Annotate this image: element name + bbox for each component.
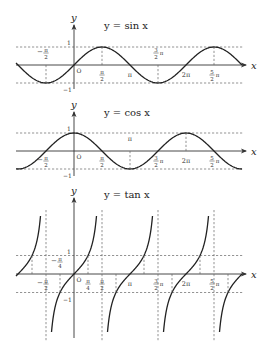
svg-text:π: π — [160, 281, 164, 287]
x-tick-label: −π2 — [37, 47, 49, 60]
svg-text:2: 2 — [100, 76, 104, 82]
x-tick-label: π4 — [85, 278, 90, 291]
svg-text:π: π — [216, 158, 220, 164]
svg-text:−: − — [37, 279, 43, 287]
origin-label: O — [77, 153, 82, 160]
svg-text:2: 2 — [100, 162, 104, 168]
x-tick-label: 32π — [153, 47, 163, 60]
sine-graph: xyy = sin xO1−1−π2π2π32π2π52π — [16, 12, 257, 93]
svg-text:π: π — [44, 278, 48, 284]
svg-text:π: π — [44, 155, 48, 161]
x-tick-label: π2 — [99, 155, 104, 168]
svg-text:2: 2 — [154, 162, 158, 168]
svg-text:π: π — [128, 280, 133, 288]
y-tick-1: 1 — [67, 39, 71, 46]
svg-text:2: 2 — [210, 76, 214, 82]
x-axis-label: x — [251, 60, 257, 71]
x-tick-label: −π4 — [51, 256, 63, 269]
svg-text:−: − — [37, 156, 43, 164]
svg-text:5: 5 — [210, 278, 214, 284]
svg-text:2π: 2π — [182, 157, 191, 165]
x-tick-label: −π2 — [37, 155, 49, 168]
svg-text:2: 2 — [154, 54, 158, 60]
y-tick-1: 1 — [67, 248, 71, 255]
y-tick-minus-1: −1 — [63, 172, 72, 179]
svg-text:2: 2 — [210, 285, 214, 291]
svg-text:2: 2 — [44, 162, 48, 168]
origin-label: O — [77, 67, 82, 74]
svg-text:−: − — [51, 257, 57, 265]
tan-branch — [220, 274, 243, 332]
x-tick-label: 52π — [209, 278, 219, 291]
x-tick-label: 32π — [153, 155, 163, 168]
x-tick-label: −π2 — [37, 278, 49, 291]
svg-text:5: 5 — [210, 69, 214, 75]
svg-text:π: π — [100, 278, 104, 284]
svg-text:π: π — [216, 281, 220, 287]
y-tick-1: 1 — [67, 125, 71, 132]
svg-text:2: 2 — [44, 54, 48, 60]
svg-text:π: π — [160, 50, 164, 56]
trig-function-figure: xyy = sin xO1−1−π2π2π32π2π52π xyy = cos … — [0, 0, 272, 358]
svg-text:4: 4 — [58, 263, 62, 269]
x-tick-label: π2 — [99, 69, 104, 82]
x-tick-label: 2π — [182, 280, 191, 288]
x-axis-label: x — [251, 146, 257, 157]
y-axis-label: y — [70, 99, 77, 110]
graph-title: y = tan x — [103, 189, 150, 200]
svg-text:2: 2 — [154, 285, 158, 291]
x-tick-label: π — [128, 280, 133, 288]
x-axis-label: x — [251, 269, 257, 280]
trig-graphs-svg: xyy = sin xO1−1−π2π2π32π2π52π xyy = cos … — [0, 0, 272, 358]
svg-text:5: 5 — [210, 155, 214, 161]
cosine-graph: xyy = cos xO1−1−π2π2π32π2π52π — [16, 99, 257, 179]
x-tick-label: π — [128, 71, 133, 79]
y-axis-label: y — [70, 185, 77, 196]
svg-text:3: 3 — [154, 47, 158, 53]
svg-text:2π: 2π — [182, 280, 191, 288]
svg-text:π: π — [100, 155, 104, 161]
x-tick-label: 52π — [209, 155, 219, 168]
svg-text:3: 3 — [154, 155, 158, 161]
svg-text:3: 3 — [154, 278, 158, 284]
svg-text:2: 2 — [44, 285, 48, 291]
svg-text:π: π — [58, 256, 62, 262]
y-tick-minus-1: −1 — [63, 86, 72, 93]
x-tick-label: π2 — [99, 278, 104, 291]
svg-text:π: π — [86, 278, 90, 284]
svg-text:2: 2 — [210, 162, 214, 168]
svg-text:π: π — [160, 158, 164, 164]
x-tick-label: 2π — [182, 157, 191, 165]
svg-text:2π: 2π — [182, 71, 191, 79]
x-tick-label: 32π — [153, 278, 163, 291]
x-tick-label: 52π — [209, 69, 219, 82]
graph-title: y = sin x — [103, 20, 148, 31]
x-tick-label: 2π — [182, 71, 191, 79]
y-tick-minus-1: −1 — [63, 296, 72, 303]
y-axis-label: y — [70, 12, 77, 23]
svg-text:π: π — [100, 69, 104, 75]
tan-branch — [16, 216, 41, 276]
tangent-graph: xyy = tan xO1−1−π2−π4π4π2π32π2π52π — [16, 185, 257, 342]
svg-text:−: − — [37, 48, 43, 56]
svg-text:4: 4 — [86, 285, 90, 291]
svg-text:π: π — [216, 72, 220, 78]
svg-text:π: π — [128, 135, 133, 143]
origin-label: O — [77, 276, 82, 283]
svg-text:π: π — [44, 47, 48, 53]
svg-text:π: π — [128, 71, 133, 79]
svg-text:2: 2 — [100, 285, 104, 291]
graph-title: y = cos x — [103, 107, 150, 118]
x-tick-label: π — [128, 135, 133, 143]
